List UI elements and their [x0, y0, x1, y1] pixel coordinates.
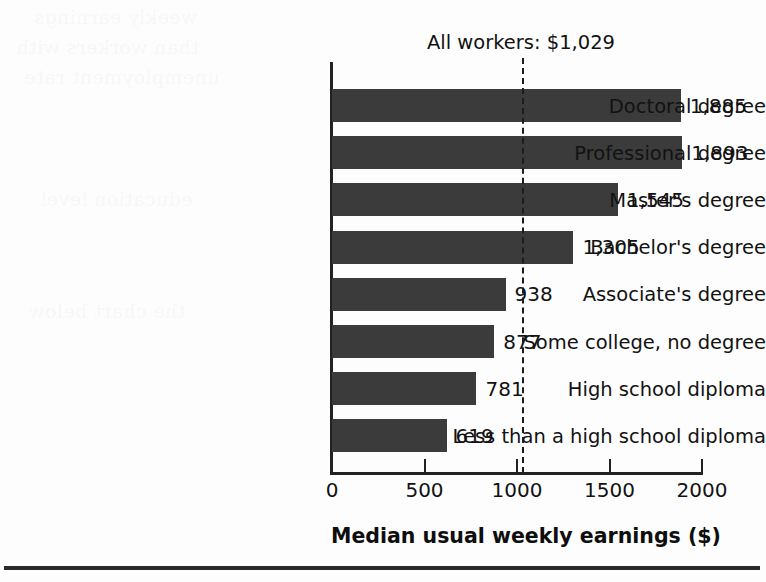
bar — [332, 419, 447, 452]
x-axis-tick-label: 1000 — [492, 478, 543, 502]
bar-value-label: 1,885 — [690, 94, 747, 118]
category-label: Associate's degree — [448, 283, 766, 306]
x-axis-tick — [609, 459, 611, 473]
category-label: Some college, no degree — [448, 330, 766, 353]
x-axis-tick-label: 500 — [405, 478, 443, 502]
reference-dashed-line — [522, 58, 524, 473]
bar-value-label: 619 — [456, 424, 494, 448]
reference-annotation-label: All workers: $1,029 — [331, 31, 711, 54]
bar-value-label: 781 — [485, 377, 523, 401]
chart-page: weekly earnings than workers with unempl… — [0, 0, 766, 582]
x-axis-tick — [701, 459, 703, 473]
bar-value-label: 938 — [515, 282, 553, 306]
y-axis-line — [330, 62, 333, 474]
bar-value-label: 1,545 — [627, 188, 684, 212]
category-label: Less than a high school diploma — [448, 424, 766, 447]
x-axis-tick-label: 2000 — [677, 478, 728, 502]
bar-chart: All workers: $1,029 Doctoral degreeProfe… — [0, 0, 766, 582]
x-axis-tick-label: 0 — [326, 478, 339, 502]
bar-value-label: 1,305 — [582, 235, 639, 259]
x-axis-tick — [424, 459, 426, 473]
category-label: Master's degree — [448, 188, 766, 211]
x-axis-tick — [516, 459, 518, 473]
x-axis-tick-label: 1500 — [584, 478, 635, 502]
x-axis-tick — [331, 459, 333, 473]
bar-value-label: 1,893 — [691, 141, 748, 165]
x-axis-title: Median usual weekly earnings ($) — [331, 524, 711, 548]
page-bottom-rule — [4, 566, 760, 570]
